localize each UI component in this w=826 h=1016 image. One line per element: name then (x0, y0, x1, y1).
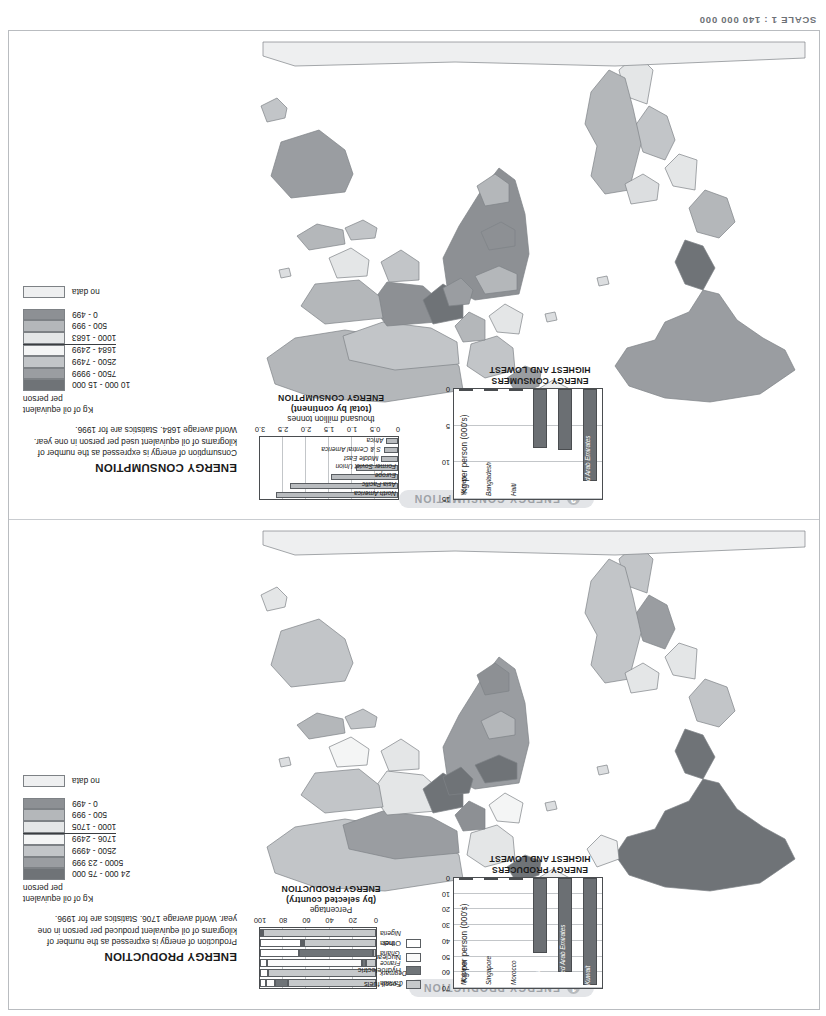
legend-class-row[interactable]: 2500 - 4999 (23, 845, 116, 857)
chart-bar-segment[interactable] (266, 979, 275, 987)
legend-no-data-row[interactable]: no data (23, 286, 100, 298)
legend-class-swatch (23, 309, 65, 321)
chart-y-tick: 30 (442, 921, 450, 930)
chart-subtitle: HIGHEST AND LOWEST (447, 364, 633, 375)
chart-bar-segment[interactable] (260, 969, 268, 977)
legend-description: Production of energy is expressed as the… (23, 913, 237, 947)
chart-bar[interactable] (381, 456, 398, 462)
chart-bar[interactable] (387, 438, 399, 444)
legend-class-row[interactable]: 7500 - 9999 (23, 368, 116, 380)
chart-x-tick: 0 (374, 916, 378, 925)
legend-class-row[interactable]: 24 000 - 75 000 (23, 868, 130, 880)
legend-consumption: ENERGY CONSUMPTION Consumption of energy… (23, 286, 237, 474)
chart-title: ENERGY CONSUMERS (447, 375, 633, 386)
chart-gridline (454, 940, 602, 941)
legend-class-swatch (23, 834, 65, 846)
legend-class-label: 1684 - 2499 (72, 345, 116, 355)
chart-legend: Fossil fuelsHydroelectricNuclearOther (358, 940, 421, 990)
legend-class-row[interactable]: 500 - 999 (23, 809, 107, 821)
legend-class-row[interactable]: 5000 - 23 999 (23, 857, 123, 869)
chart-bar-segment[interactable] (260, 979, 266, 987)
chart-axis-title: Kg per person (000's) (455, 879, 469, 989)
legend-class-label: 10 000 - 15 000 (72, 380, 130, 390)
chart-bar[interactable] (558, 389, 572, 450)
chart-gridline (454, 924, 602, 925)
legend-class-label: 0 - 499 (72, 799, 98, 809)
chart-subtitle: HIGHEST AND LOWEST (447, 853, 633, 864)
chart-legend-swatch (406, 980, 421, 989)
legend-class-row[interactable]: 0 - 499 (23, 798, 98, 810)
chart-gridline (454, 987, 602, 988)
chart-bar-segment[interactable] (267, 959, 362, 967)
chart-legend-label: Nuclear (376, 953, 401, 962)
legend-class-row-world-average[interactable]: 1000 - 1683 (23, 332, 116, 345)
chart-x-tick: 3.0 (255, 425, 265, 434)
chart-gridline (454, 956, 602, 957)
chart-bar[interactable] (533, 389, 547, 448)
chart-y-tick: 50 (442, 952, 450, 961)
chart-y-tick: 15 (442, 495, 450, 504)
chart-y-tick: 40 (442, 936, 450, 945)
chart-legend-item[interactable]: Hydroelectric (358, 967, 421, 976)
legend-class-row-world-average[interactable]: 1000 - 1705 (23, 821, 116, 834)
chart-bar-label: Former Soviet Union (336, 463, 396, 470)
chart-bar-label: Haiti (510, 483, 517, 496)
chart-legend-item[interactable]: Fossil fuels (358, 980, 421, 989)
legend-no-data-label: no data (72, 287, 100, 297)
legend-class-row[interactable]: 0 - 499 (23, 309, 98, 321)
chart-legend-label: Hydroelectric (358, 967, 401, 976)
chart-bar-segment[interactable] (260, 939, 301, 947)
chart-y-tick: 5 (446, 421, 450, 430)
legend-class-row[interactable]: 1684 - 2499 (23, 345, 116, 357)
legend-class-row[interactable]: 500 - 999 (23, 320, 107, 332)
chart-bar-segment[interactable] (302, 939, 304, 947)
legend-class-swatch (23, 332, 65, 344)
chart-bar[interactable] (260, 929, 376, 937)
chart-bar[interactable] (484, 878, 498, 880)
legend-unit-line2: per person (23, 883, 237, 893)
chart-y-tick: 60 (442, 968, 450, 977)
chart-legend-swatch (406, 953, 421, 962)
legend-class-label: 500 - 999 (72, 810, 107, 820)
chart-bar[interactable] (509, 878, 523, 880)
chart-gridline (282, 437, 283, 499)
legend-description: Consumption of energy is expressed as th… (23, 424, 237, 458)
chart-bar-segment[interactable] (260, 959, 267, 967)
chart-bar[interactable] (533, 878, 547, 953)
chart-y-tick: 10 (442, 458, 450, 467)
chart-bar-segment[interactable] (260, 929, 262, 937)
chart-bar-segment[interactable] (260, 949, 299, 957)
chart-x-axis-label: Percentage (241, 905, 421, 915)
chart-bar-segment[interactable] (275, 979, 288, 987)
legend-class-swatch (23, 345, 65, 357)
chart-bar-segment[interactable] (263, 929, 376, 937)
legend-class-swatch (23, 809, 65, 821)
legend-class-swatch (23, 320, 65, 332)
chart-bar[interactable] (384, 447, 398, 453)
chart-legend-item[interactable]: Nuclear (358, 953, 421, 962)
atlas-sheet: 1 ENERGY PRODUCTION (8, 30, 820, 1010)
chart-bar[interactable] (484, 389, 498, 391)
chart-gridline (454, 425, 602, 426)
legend-class-row[interactable]: 1706 - 2499 (23, 834, 116, 846)
chart-legend-item[interactable]: Other (358, 940, 421, 949)
legend-no-data-row[interactable]: no data (23, 775, 100, 787)
legend-class-swatch (23, 857, 65, 869)
chart-axis-title: Kg per person (000's) (455, 390, 469, 500)
chart-bar-label: Morocco (510, 960, 517, 985)
chart-gridline (454, 893, 602, 894)
legend-class-row[interactable]: 2500 - 7499 (23, 356, 116, 368)
legend-production: ENERGY PRODUCTION Production of energy i… (23, 775, 237, 963)
chart-bar[interactable] (509, 389, 523, 391)
legend-swatch-list: 10 000 - 15 000 7500 - 9999 2500 - 7499 … (23, 286, 237, 391)
map-panel-production: 1 ENERGY PRODUCTION (9, 520, 819, 1009)
chart-x-tick: 20 (349, 916, 357, 925)
chart-bar-label: North America (354, 490, 396, 497)
legend-class-row[interactable]: 10 000 - 15 000 (23, 379, 130, 391)
chart-gridline (305, 437, 306, 499)
chart-x-tick: 0.5 (370, 425, 380, 434)
chart-x-tick: 60 (302, 916, 310, 925)
chart-bar-label: USA (534, 483, 541, 496)
legend-class-label: 1000 - 1705 (72, 822, 116, 832)
legend-class-label: 1000 - 1683 (72, 333, 116, 343)
